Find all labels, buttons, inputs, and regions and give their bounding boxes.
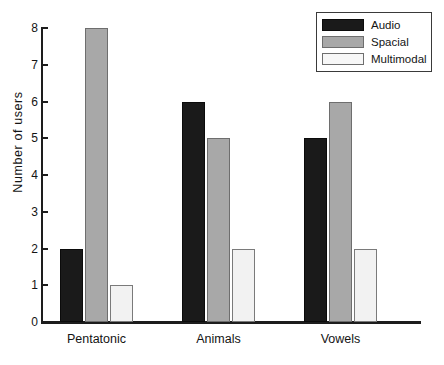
y-tick-label: 2: [12, 243, 38, 255]
y-tick-label: 6: [12, 96, 38, 108]
y-tick-label: 4: [12, 169, 38, 181]
bar-multimodal-pentatonic: [110, 285, 133, 322]
legend-swatch-multimodal: [322, 53, 364, 65]
y-tick-label: 8: [12, 22, 38, 34]
legend: AudioSpacialMultimodal: [316, 12, 432, 72]
plot-area: [42, 28, 420, 322]
bar-multimodal-vowels: [354, 249, 377, 323]
x-axis-label-animals: Animals: [159, 332, 279, 346]
chart-figure: Number of users 012345678 PentatonicAnim…: [0, 0, 444, 365]
legend-label-multimodal: Multimodal: [371, 53, 427, 65]
legend-item-multimodal: Multimodal: [322, 51, 426, 67]
legend-swatch-audio: [322, 19, 364, 31]
y-tick-label: 5: [12, 132, 38, 144]
y-tick-label: 7: [12, 59, 38, 71]
bar-audio-pentatonic: [60, 249, 83, 323]
bar-audio-vowels: [304, 138, 327, 322]
bar-spacial-pentatonic: [85, 28, 108, 322]
y-tick-label: 1: [12, 279, 38, 291]
legend-swatch-spacial: [322, 36, 364, 48]
bar-audio-animals: [182, 102, 205, 323]
bar-spacial-animals: [207, 138, 230, 322]
legend-label-spacial: Spacial: [371, 36, 409, 48]
y-axis-ticks: 012345678: [0, 0, 38, 365]
y-tick-label: 0: [12, 316, 38, 328]
bar-spacial-vowels: [329, 102, 352, 323]
x-axis-label-pentatonic: Pentatonic: [37, 332, 157, 346]
legend-label-audio: Audio: [371, 19, 400, 31]
y-tick-label: 3: [12, 206, 38, 218]
legend-item-audio: Audio: [322, 17, 426, 33]
x-axis-label-vowels: Vowels: [281, 332, 401, 346]
bar-multimodal-animals: [232, 249, 255, 323]
legend-item-spacial: Spacial: [322, 34, 426, 50]
